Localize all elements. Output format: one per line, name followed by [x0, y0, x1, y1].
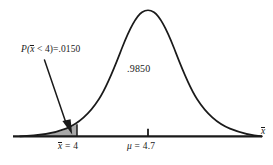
- probability-value: .0150: [59, 44, 81, 54]
- xbar-symbol-probability: x: [30, 45, 34, 55]
- probability-relation: < 4): [35, 44, 54, 54]
- tick-equals-xbar: =: [62, 141, 73, 151]
- xbar-symbol-axis-end: x: [261, 127, 265, 137]
- annotation-arrow-line: [45, 60, 67, 124]
- tick-value-xbar: 4: [73, 141, 78, 151]
- normal-distribution-figure: P(x < 4)=.0150 .9850 x = 4 μ = 4.7 x: [0, 0, 273, 165]
- probability-annotation-label: P(x < 4)=.0150: [21, 45, 80, 55]
- probability-prefix: P(: [21, 44, 30, 54]
- tick-value-mu: 4.7: [143, 141, 155, 151]
- tick-label-mu: μ = 4.7: [127, 142, 155, 152]
- xbar-symbol-tick: x: [58, 142, 62, 152]
- tick-equals-mu: =: [132, 141, 143, 151]
- tick-label-xbar: x = 4: [58, 142, 78, 152]
- body-area-label: .9850: [127, 64, 151, 74]
- axis-end-label: x: [261, 127, 265, 137]
